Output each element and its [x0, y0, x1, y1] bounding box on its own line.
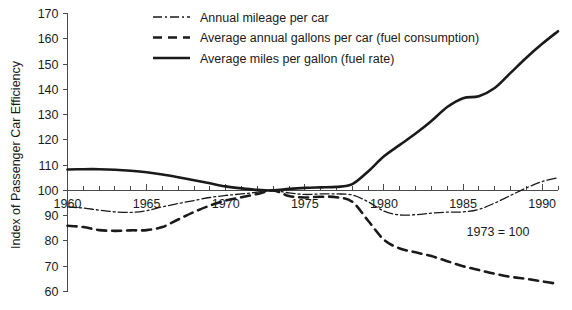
- y-axis-title-group: Index of Passenger Car Efficiency: [9, 60, 23, 249]
- y-tick-label: 170: [38, 7, 59, 21]
- x-tick-label: 1975: [291, 197, 319, 211]
- y-tick-label: 110: [39, 159, 59, 173]
- y-tick-label: 130: [38, 108, 59, 122]
- y-tick-label: 120: [38, 133, 59, 147]
- y-tick-label: 150: [38, 58, 59, 72]
- chart-legend: Annual mileage per carAverage annual gal…: [153, 11, 479, 66]
- legend-item: Annual mileage per car: [153, 11, 329, 25]
- x-tick-label: 1960: [54, 197, 82, 211]
- y-tick-label: 100: [38, 184, 59, 198]
- y-axis-ticks: 60708090100110120130140150160170: [38, 7, 68, 299]
- y-tick-label: 140: [38, 83, 59, 97]
- baseline-note: 1973 = 100: [467, 225, 530, 239]
- y-tick-label: 80: [45, 234, 59, 248]
- legend-item: Average annual gallons per car (fuel con…: [153, 31, 479, 45]
- legend-item: Average miles per gallon (fuel rate): [153, 52, 394, 66]
- series-layer: [68, 31, 559, 284]
- x-tick-label: 1965: [133, 197, 161, 211]
- y-tick-label: 60: [45, 285, 59, 299]
- line-chart: Index of Passenger Car Efficiency 607080…: [0, 0, 572, 310]
- legend-label-1: Average annual gallons per car (fuel con…: [200, 31, 479, 45]
- chart-container: Index of Passenger Car Efficiency 607080…: [0, 0, 572, 310]
- y-axis-title: Index of Passenger Car Efficiency: [9, 60, 23, 249]
- y-tick-label: 70: [45, 260, 59, 274]
- x-tick-label: 1980: [370, 197, 398, 211]
- legend-label-0: Annual mileage per car: [200, 11, 329, 25]
- y-tick-label: 160: [38, 32, 59, 46]
- x-tick-label: 1990: [528, 197, 556, 211]
- x-tick-label: 1985: [449, 197, 477, 211]
- legend-label-2: Average miles per gallon (fuel rate): [200, 52, 394, 66]
